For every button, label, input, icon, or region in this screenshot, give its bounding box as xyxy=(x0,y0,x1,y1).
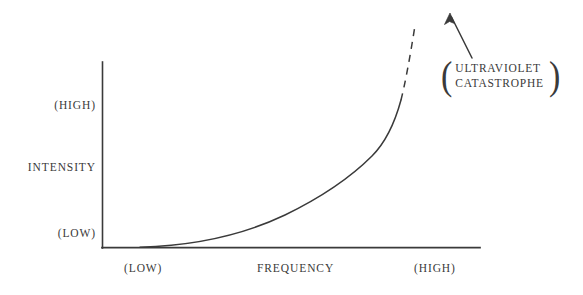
y-axis-title: INTENSITY xyxy=(28,162,96,174)
ultraviolet-catastrophe-annotation: ( ULTRAVIOLET CATASTROPHE ) xyxy=(440,60,561,93)
callout-arrow xyxy=(445,13,473,58)
ultraviolet-catastrophe-plot xyxy=(0,0,583,295)
annotation-line-2: CATASTROPHE xyxy=(455,76,543,91)
intensity-curve-dashed xyxy=(401,25,415,100)
annotation-close-paren: ) xyxy=(549,60,560,93)
figure-canvas: (HIGH) INTENSITY (LOW) (LOW) FREQUENCY (… xyxy=(0,0,583,295)
y-axis-high-label: (HIGH) xyxy=(54,100,96,112)
x-axis-low-label: (LOW) xyxy=(124,263,162,275)
annotation-open-paren: ( xyxy=(441,60,452,93)
intensity-curve-solid xyxy=(140,100,401,247)
y-axis-low-label: (LOW) xyxy=(58,228,96,240)
annotation-line-1: ULTRAVIOLET xyxy=(455,61,543,76)
x-axis-high-label: (HIGH) xyxy=(414,263,456,275)
x-axis-title: FREQUENCY xyxy=(257,263,334,275)
annotation-text-block: ULTRAVIOLET CATASTROPHE xyxy=(455,61,543,91)
